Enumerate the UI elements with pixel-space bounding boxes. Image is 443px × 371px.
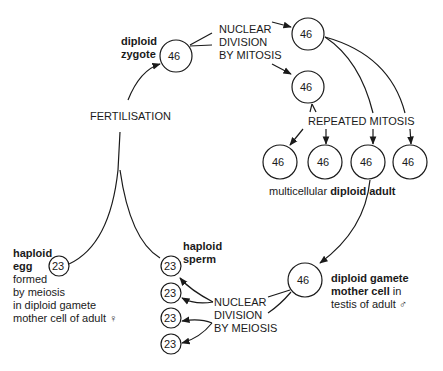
sperm-2-count: 23	[164, 287, 176, 300]
sperm-4-count: 23	[164, 338, 176, 351]
arrow-mitosis-to-mid-cell	[272, 64, 291, 74]
adult-label: multicellular diploid adult	[269, 185, 396, 198]
egg-label: haploid egg formed by meiosis in diploid…	[13, 247, 117, 325]
adult-1-count: 46	[272, 156, 284, 169]
meiosis-label: NUCLEARDIVISIONBY MEIOSIS	[214, 296, 277, 335]
mitosis-label: NUCLEARDIVISIONBY MITOSIS	[219, 23, 282, 62]
sperm-3-count: 23	[164, 312, 176, 325]
mitosis-top-count: 46	[300, 28, 312, 41]
line-top-cell-down-1	[325, 37, 373, 113]
zygote-count: 46	[168, 50, 180, 63]
arrow-to-adult-1	[290, 129, 303, 145]
line-mid-cell-2	[312, 104, 316, 112]
arrow-meiosis-to-sperm-2	[182, 298, 213, 303]
arrow-to-adult-4	[410, 129, 411, 144]
arrow-fertilisation-to-zygote	[128, 64, 160, 100]
gamete-mother-count: 46	[297, 274, 309, 287]
gamete-mother-cell-label: diploid gamete mother cell in testis of …	[331, 272, 409, 311]
arrow-meiosis-to-sperm-4	[182, 323, 212, 343]
line-zygote-to-mitosis-1	[190, 33, 212, 45]
zygote-label: diploidzygote	[121, 35, 157, 61]
line-sperm-to-fertilisation	[120, 170, 160, 258]
arrow-meiosis-to-sperm-1	[180, 278, 213, 302]
repeated-mitosis-label: REPEATED MITOSIS	[308, 115, 415, 128]
line-top-cell-down-2	[325, 37, 405, 113]
adult-4-count: 46	[402, 156, 414, 169]
adult-2-count: 46	[317, 156, 329, 169]
mitosis-mid-count: 46	[300, 81, 312, 94]
line-mid-cell-1	[310, 104, 312, 112]
adult-3-count: 46	[360, 156, 372, 169]
line-zygote-to-mitosis-2	[190, 45, 212, 46]
line-egg-to-fertilisation	[69, 132, 120, 264]
sperm-label: haploidsperm	[183, 240, 222, 266]
sperm-1-count: 23	[164, 260, 176, 273]
arrow-meiosis-to-sperm-3	[182, 320, 212, 323]
fertilisation-label: FERTILISATION	[90, 110, 171, 123]
